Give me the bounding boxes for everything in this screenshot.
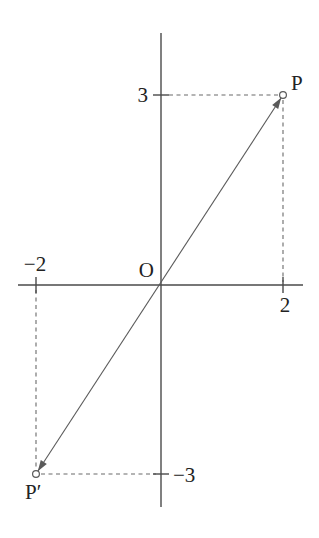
coordinate-plane-diagram: 3−3−22OPP′: [0, 0, 319, 538]
arrowhead-P-prime: [38, 460, 47, 471]
label-P: P: [291, 71, 303, 95]
point-P-marker: [280, 92, 287, 99]
label-2: 2: [280, 293, 291, 317]
figure-canvas: 3−3−22OPP′: [0, 0, 319, 538]
label-neg2: −2: [24, 252, 46, 276]
arrowhead-P: [272, 98, 281, 109]
label-P-prime: P′: [25, 480, 41, 504]
label-3: 3: [138, 83, 149, 107]
label-O: O: [139, 258, 154, 282]
point-P-prime-marker: [33, 471, 40, 478]
label-neg3: −3: [173, 463, 195, 487]
